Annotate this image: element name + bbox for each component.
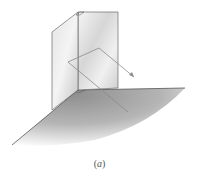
vector-arrowhead-icon xyxy=(129,72,134,77)
floor-plane xyxy=(12,88,185,146)
figure-caption: (a) xyxy=(0,158,199,169)
back-plane xyxy=(78,12,118,90)
